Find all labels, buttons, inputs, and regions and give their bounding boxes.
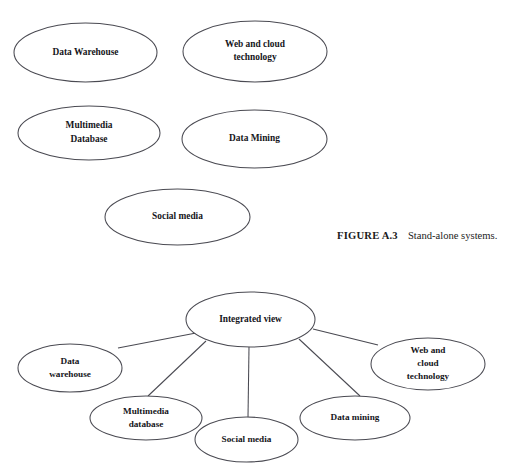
node-label-data-mining: Data mining xyxy=(331,412,380,422)
node-multimedia-database[interactable]: Multimediadatabase xyxy=(90,396,202,440)
connector-integrated-view-to-data-warehouse xyxy=(118,333,196,348)
node-label-web-and-cloud-technology: cloud xyxy=(417,358,438,368)
node-data-warehouse[interactable]: Datawarehouse xyxy=(18,344,122,392)
node-label-web-and-cloud-technology: Web and xyxy=(411,345,446,355)
connector-integrated-view-to-data-mining xyxy=(299,339,360,396)
node-integrated-view[interactable]: Integrated view xyxy=(186,292,315,347)
node-label-multimedia-database: database xyxy=(129,419,164,429)
node-label-web-and-cloud-technology: technology xyxy=(233,52,277,62)
node-label-integrated-view: Integrated view xyxy=(219,314,282,324)
node-data-warehouse[interactable]: Data Warehouse xyxy=(14,23,157,82)
node-data-mining[interactable]: Data Mining xyxy=(182,110,327,168)
node-social-media[interactable]: Social media xyxy=(195,417,298,462)
node-label-data-warehouse: warehouse xyxy=(49,369,91,379)
figure-caption-text: Stand-alone systems. xyxy=(408,230,497,241)
node-label-data-warehouse: Data Warehouse xyxy=(52,47,118,57)
node-web-and-cloud-technology[interactable]: Web and cloudtechnology xyxy=(183,21,327,82)
connector-integrated-view-to-multimedia-database xyxy=(148,341,206,396)
figure-caption-tag: FIGURE A.3 xyxy=(337,230,398,241)
node-label-web-and-cloud-technology: Web and cloud xyxy=(225,39,286,49)
node-label-data-mining: Data Mining xyxy=(229,133,280,143)
node-label-data-warehouse: Data xyxy=(61,356,80,366)
node-multimedia-database[interactable]: MultimediaDatabase xyxy=(18,106,160,160)
connector-integrated-view-to-web-and-cloud-technology xyxy=(313,329,378,345)
node-social-media[interactable]: Social media xyxy=(105,189,250,245)
node-label-multimedia-database: Database xyxy=(71,134,108,144)
figure-a3-root: Data WarehouseWeb and cloudtechnologyMul… xyxy=(0,0,515,468)
node-label-multimedia-database: Multimedia xyxy=(123,406,169,416)
node-label-social-media: Social media xyxy=(222,434,272,444)
integrated-view-diagram: Integrated viewDatawarehouseMultimediada… xyxy=(18,292,485,462)
node-label-web-and-cloud-technology: technology xyxy=(407,371,450,381)
node-data-mining[interactable]: Data mining xyxy=(300,396,410,440)
node-web-and-cloud-technology[interactable]: Web andcloudtechnology xyxy=(371,338,485,390)
node-label-social-media: Social media xyxy=(152,211,203,221)
stand-alone-systems-diagram: Data WarehouseWeb and cloudtechnologyMul… xyxy=(14,21,327,245)
node-label-multimedia-database: Multimedia xyxy=(66,120,113,130)
connector-integrated-view-to-social-media xyxy=(248,347,249,417)
figure-caption: FIGURE A.3Stand-alone systems. xyxy=(337,225,497,243)
